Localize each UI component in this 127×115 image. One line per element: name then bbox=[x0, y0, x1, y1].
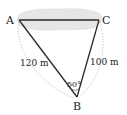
vertex-label-b: B bbox=[73, 100, 81, 113]
vertex-label-c: C bbox=[102, 14, 110, 27]
triangle-diagram: A C B 120 m 100 m 50° bbox=[0, 0, 127, 115]
angle-label-b: 50° bbox=[67, 80, 81, 89]
vertex-label-a: A bbox=[5, 14, 15, 27]
side-label-cb: 100 m bbox=[90, 57, 119, 67]
side-label-ab: 120 m bbox=[20, 58, 49, 68]
